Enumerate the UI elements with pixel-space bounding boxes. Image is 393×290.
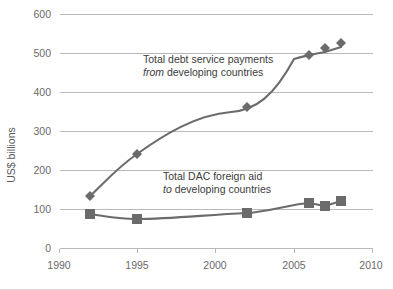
debt-annotation-line2: from developing countries [143,66,263,78]
y-tick-label-100: 100 [33,203,51,215]
x-tick-labels: 1990 1995 2000 2005 2010 [47,259,383,271]
debt-annotation-line1: Total debt service payments [143,53,273,65]
debt-annotation-rest: developing countries [164,66,263,78]
marker-square-1992 [85,209,95,219]
y-axis-title: US$ billions [5,127,17,182]
x-tick-label-2005: 2005 [282,259,306,271]
y-tick-label-600: 600 [33,8,51,20]
line-chart: 600 500 400 300 200 100 0 1990 1995 2000… [0,0,393,290]
y-tick-label-500: 500 [33,47,51,59]
y-tick-label-400: 400 [33,86,51,98]
marker-diamond-2008 [336,38,346,48]
marker-square-2008 [336,196,346,206]
x-tick-label-1995: 1995 [125,259,149,271]
x-axis [60,249,373,253]
marker-diamond-2006 [304,50,314,60]
x-tick-label-2010: 2010 [359,259,383,271]
debt-annotation-em: from [143,66,164,78]
dac-annotation-line2: to developing countries [163,183,271,195]
marker-square-2006 [304,198,314,208]
y-tick-label-300: 300 [33,125,51,137]
chart-figure: 600 500 400 300 200 100 0 1990 1995 2000… [0,0,393,290]
marker-square-2003 [242,208,252,218]
y-tick-label-0: 0 [45,242,51,254]
marker-square-1997 [132,214,142,224]
dac-annotation-rest: developing countries [172,183,271,195]
dac-annotation-line1: Total DAC foreign aid [163,170,262,182]
x-tick-label-1990: 1990 [47,259,71,271]
y-tick-labels: 600 500 400 300 200 100 0 [33,8,51,254]
dac-annotation-em: to [163,183,172,195]
y-tick-label-200: 200 [33,164,51,176]
debt-service-annotation: Total debt service payments from develop… [143,53,273,78]
x-tick-label-2000: 2000 [203,259,227,271]
dac-aid-annotation: Total DAC foreign aid to developing coun… [163,170,271,195]
marker-square-2007 [320,201,330,211]
